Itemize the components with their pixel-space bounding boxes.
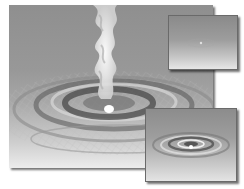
inset-ripples-panel: [145, 108, 237, 182]
inset-flat-surface-panel: [168, 15, 238, 70]
flat-surface-graphic: [169, 16, 237, 69]
ripples-graphic: [146, 109, 236, 181]
